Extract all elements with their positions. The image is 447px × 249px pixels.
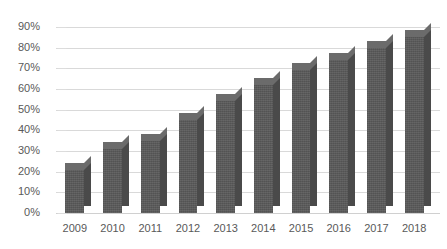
bar-front-face — [141, 141, 160, 213]
bar[interactable] — [254, 85, 273, 213]
bar-side-face — [122, 142, 129, 206]
y-axis-tick-label: 40% — [0, 123, 40, 135]
x-axis-tick-label: 2013 — [207, 222, 245, 234]
bar[interactable] — [367, 48, 386, 213]
bar-top-face — [292, 63, 311, 70]
bar-side-face — [235, 94, 242, 206]
bar-chart: 0%10%20%30%40%50%60%70%80%90% 2009201020… — [0, 0, 447, 249]
x-axis-tick-label: 2016 — [320, 222, 358, 234]
bar[interactable] — [292, 70, 311, 213]
bar-side-face — [424, 30, 431, 206]
bar-front-face — [405, 37, 424, 213]
x-axis-tick-label: 2011 — [131, 222, 169, 234]
y-axis-tick-label: 70% — [0, 61, 40, 73]
bar-front-face — [216, 101, 235, 213]
x-axis-tick-label: 2018 — [395, 222, 433, 234]
x-axis-tick-label: 2017 — [358, 222, 396, 234]
y-axis-tick-label: 80% — [0, 41, 40, 53]
bar-front-face — [254, 85, 273, 213]
gridline-depth-edge — [48, 192, 67, 202]
bar-front-face — [179, 120, 198, 213]
bar-top-face — [329, 53, 348, 60]
y-axis-tick-label: 50% — [0, 103, 40, 115]
bar-top-face — [141, 134, 160, 141]
x-axis-tick-label: 2012 — [169, 222, 207, 234]
bar-side-face — [310, 63, 317, 206]
plot-area — [48, 20, 440, 213]
bar-front-face — [329, 60, 348, 213]
bar-front-face — [65, 170, 84, 213]
y-axis-tick-label: 10% — [0, 185, 40, 197]
bar-side-face — [348, 53, 355, 206]
bar-top-face — [367, 41, 386, 48]
x-axis-tick-label: 2015 — [282, 222, 320, 234]
gridline-depth-edge — [48, 151, 67, 161]
bar-side-face — [273, 78, 280, 206]
y-axis-tick-label: 60% — [0, 82, 40, 94]
chart-title — [0, 0, 447, 2]
bar-top-face — [254, 78, 273, 85]
bar-front-face — [292, 70, 311, 213]
bar-top-face — [179, 113, 198, 120]
bar[interactable] — [103, 149, 122, 213]
gridline-depth-edge — [48, 89, 67, 99]
y-axis-tick-label: 30% — [0, 144, 40, 156]
bar[interactable] — [329, 60, 348, 213]
x-axis-tick-label: 2010 — [94, 222, 132, 234]
bar-front-face — [367, 48, 386, 213]
gridline-depth-edge — [48, 172, 67, 182]
bar-top-face — [103, 142, 122, 149]
y-axis-tick-label: 20% — [0, 165, 40, 177]
y-axis-tick-label: 0% — [0, 206, 40, 218]
bar[interactable] — [65, 170, 84, 213]
gridline-depth-edge — [48, 68, 67, 78]
bar-top-face — [405, 30, 424, 37]
gridline — [56, 213, 440, 214]
bar-front-face — [103, 149, 122, 213]
x-axis-tick-label: 2014 — [245, 222, 283, 234]
bar[interactable] — [179, 120, 198, 213]
gridline-depth-edge — [48, 48, 67, 58]
y-axis-tick-label: 90% — [0, 20, 40, 32]
bar-side-face — [160, 134, 167, 206]
gridline-depth-edge — [48, 130, 67, 140]
bar-top-face — [216, 94, 235, 101]
bar[interactable] — [216, 101, 235, 213]
bar-top-face — [65, 163, 84, 170]
gridline-depth-edge — [48, 27, 67, 37]
bar[interactable] — [141, 141, 160, 213]
bar-side-face — [84, 163, 91, 206]
bar-side-face — [386, 41, 393, 206]
bar-side-face — [197, 113, 204, 206]
bar[interactable] — [405, 37, 424, 213]
gridline-depth-edge — [48, 110, 67, 120]
gridline — [56, 27, 440, 28]
x-axis-tick-label: 2009 — [56, 222, 94, 234]
